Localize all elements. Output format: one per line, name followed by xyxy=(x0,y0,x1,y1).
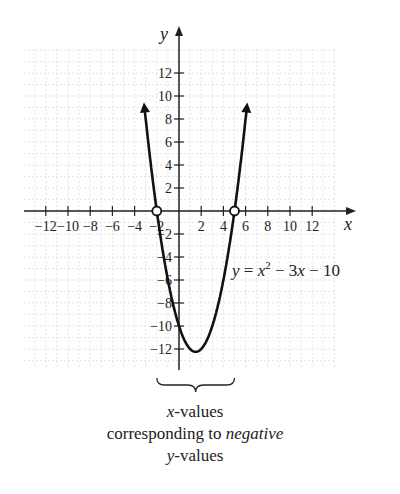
svg-text:−8: −8 xyxy=(157,296,172,311)
svg-text:12: 12 xyxy=(158,66,172,81)
svg-text:4: 4 xyxy=(220,219,227,234)
y-axis-label: y xyxy=(158,24,168,44)
equation-label: y = x2 − 3x − 10 xyxy=(230,259,340,280)
svg-text:−10: −10 xyxy=(57,219,79,234)
grid-lines xyxy=(24,49,336,370)
parabola-chart: −12−10−8−6−4−224681012−12−10−8−6−4−22468… xyxy=(0,0,400,400)
x-axis-label: x xyxy=(343,214,352,234)
svg-text:4: 4 xyxy=(165,158,172,173)
brace-caption: x-values corresponding to negative y-val… xyxy=(0,401,390,467)
svg-text:6: 6 xyxy=(165,135,172,150)
svg-text:12: 12 xyxy=(305,219,319,234)
svg-text:−12: −12 xyxy=(150,342,172,357)
svg-text:−10: −10 xyxy=(150,319,172,334)
negative-region-brace xyxy=(157,378,235,392)
svg-text:−8: −8 xyxy=(83,219,98,234)
svg-text:8: 8 xyxy=(165,112,172,127)
svg-text:−4: −4 xyxy=(127,219,142,234)
svg-text:−12: −12 xyxy=(35,219,57,234)
svg-text:10: 10 xyxy=(283,219,297,234)
caption-line-3: y-values xyxy=(0,445,390,467)
svg-text:6: 6 xyxy=(242,219,249,234)
caption-line-1: x-values xyxy=(0,401,390,423)
svg-text:10: 10 xyxy=(158,89,172,104)
svg-text:2: 2 xyxy=(198,219,205,234)
caption-line-2: corresponding to negative xyxy=(0,423,390,445)
svg-text:−6: −6 xyxy=(105,219,120,234)
svg-text:2: 2 xyxy=(165,181,172,196)
svg-text:8: 8 xyxy=(264,219,271,234)
